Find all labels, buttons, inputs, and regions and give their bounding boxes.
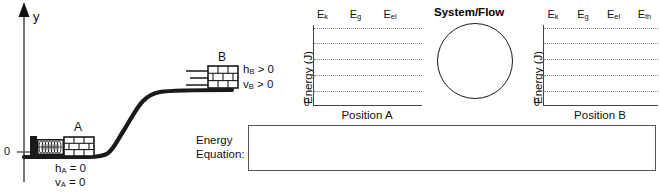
block-a-brick: [64, 137, 94, 156]
chart-a-gridline: [314, 91, 422, 92]
chart-a-category-headers: Ek Eg Eel: [306, 8, 424, 21]
chart-a-plot-area[interactable]: [313, 25, 422, 106]
chart-b-gridline: [544, 43, 658, 44]
chart-a-y-origin-label: 0: [304, 97, 310, 108]
energy-equation-input-box[interactable]: [248, 125, 656, 171]
chart-b-header-ek: Ek: [538, 8, 568, 21]
chart-a-header-eg-sub: g: [357, 12, 361, 21]
chart-a-header-ek-sub: k: [324, 12, 328, 21]
energy-equation-label-line1: Energy: [196, 133, 245, 147]
chart-a-header-eel-base: E: [383, 8, 390, 20]
system-flow-circle[interactable]: [437, 23, 513, 99]
chart-b-x-axis-label: Position B: [543, 109, 657, 121]
chart-b-header-eel: Eel: [598, 8, 629, 21]
block-b-height-note: hB > 0: [243, 63, 274, 77]
chart-a-header-eel-sub: el: [391, 12, 397, 21]
chart-a-gridline: [314, 59, 422, 60]
chart-b-header-eel-sub: el: [614, 12, 620, 21]
block-a-label: A: [74, 121, 82, 135]
y-axis-origin-label: 0: [4, 145, 10, 158]
chart-b-gridline: [544, 75, 658, 76]
block-b-brick: [208, 66, 238, 88]
chart-b-gridline: [544, 91, 658, 92]
block-a-velocity-value: = 0: [69, 176, 85, 188]
block-a-velocity-subscript: A: [61, 180, 66, 189]
energy-bar-chart-position-b: Ek Eg Eel Eth Energy (J) 0 Position B: [524, 8, 660, 126]
block-a-height-subscript: A: [61, 166, 66, 175]
block-b-velocity-subscript: B: [249, 82, 254, 91]
block-b-velocity-value: > 0: [257, 78, 273, 90]
system-flow-group: System/Flow: [428, 4, 524, 114]
block-b-height-value: > 0: [258, 63, 274, 75]
chart-a-gridline: [314, 75, 422, 76]
block-b-height-subscript: B: [249, 67, 254, 76]
wall-support: [30, 136, 37, 158]
block-a-height-note: hA = 0: [55, 162, 86, 176]
y-axis-label: y: [33, 10, 40, 25]
chart-b-gridline: [544, 59, 658, 60]
block-b-velocity-note: vB > 0: [243, 78, 273, 92]
block-b-motion-lines: [186, 71, 208, 85]
block-a-height-value: = 0: [70, 162, 86, 174]
chart-a-gridline: [314, 43, 422, 44]
energy-equation-label: Energy Equation:: [196, 133, 245, 162]
chart-b-header-ek-sub: k: [555, 12, 559, 21]
chart-b-header-ek-base: E: [547, 8, 554, 20]
chart-b-gridline: [544, 28, 658, 29]
energy-bar-chart-position-a: Ek Eg Eel Energy (J) 0 Position A: [292, 8, 424, 126]
system-flow-label: System/Flow: [434, 6, 504, 18]
chart-a-header-eg-base: E: [350, 8, 357, 20]
chart-a-header-eel: Eel: [372, 8, 408, 21]
chart-b-header-eg-sub: g: [585, 12, 589, 21]
energy-bar-chart-worksheet: y 0 A hA = 0 vA = 0 B hB > 0 vB > 0: [0, 0, 660, 193]
block-b-label: B: [218, 51, 226, 65]
chart-b-header-eth-base: E: [638, 8, 645, 20]
chart-b-category-headers: Ek Eg Eel Eth: [538, 8, 660, 21]
chart-b-header-eth-sub: th: [645, 12, 651, 21]
chart-a-x-axis-label: Position A: [313, 109, 421, 121]
chart-b-y-origin-label: 0: [534, 97, 540, 108]
chart-b-header-eth: Eth: [629, 8, 660, 21]
block-a-velocity-note: vA = 0: [55, 176, 85, 190]
chart-b-header-eg: Eg: [568, 8, 598, 21]
chart-b-header-eg-base: E: [577, 8, 584, 20]
y-axis-arrowhead: [19, 2, 30, 17]
chart-a-header-eg: Eg: [339, 8, 372, 21]
chart-b-plot-area[interactable]: [543, 25, 658, 106]
chart-a-gridline: [314, 28, 422, 29]
energy-equation-label-line2: Equation:: [196, 147, 245, 161]
chart-a-header-ek: Ek: [306, 8, 339, 21]
